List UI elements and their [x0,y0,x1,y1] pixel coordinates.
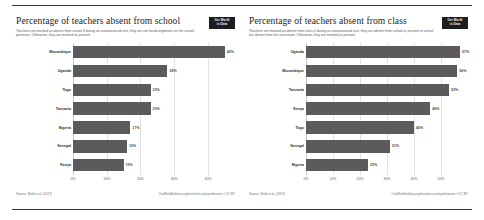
bar-row[interactable]: Kenya46% [249,102,468,114]
attribution-note[interactable]: OurWorldInData.org/teachers-and-professo… [391,192,468,196]
bar-category-label: Nigeria [292,163,304,167]
bar-track: Senegal31% [306,140,468,152]
bar-row[interactable]: Uganda28% [16,65,235,77]
bar-track: Kenya15% [73,159,235,171]
bar-track: Kenya46% [306,102,468,114]
bar-category-label: Kenya [293,107,304,111]
bar-value-label: 23% [153,88,160,92]
chart-panel-absent-from-class: Our World in Data Percentage of teachers… [245,10,472,200]
chart-footer: Source: Bold et al. (2017) OurWorldInDat… [249,192,468,196]
badge-line-2: in Data [209,23,235,27]
bar-category-label: Uganda [291,50,304,54]
bar-row[interactable]: Tanzania53% [249,84,468,96]
bar[interactable] [306,121,414,133]
bar[interactable] [73,159,124,171]
bar-value-label: 31% [392,144,399,148]
bar[interactable] [73,140,127,152]
bar-row[interactable]: Tanzania23% [16,102,235,114]
bar-value-label: 15% [126,163,133,167]
bar-track: Senegal16% [73,140,235,152]
bar[interactable] [306,65,457,77]
x-axis-tick-label: 10% [103,177,110,181]
x-axis-tick-label: 50% [437,177,444,181]
bar-value-label: 28% [169,69,176,73]
bar-row[interactable]: Nigeria17% [16,121,235,133]
bar-track: Tanzania23% [73,102,235,114]
x-axis-tick-label: 40% [204,177,211,181]
our-world-in-data-logo[interactable]: Our World in Data [442,17,468,29]
bar[interactable] [73,84,151,96]
attribution-note[interactable]: OurWorldInData.org/teachers-and-professo… [158,192,235,196]
bar-row[interactable]: Senegal16% [16,140,235,152]
bar-category-label: Kenya [60,163,71,167]
bar-row[interactable]: Mozambique56% [249,65,468,77]
bar[interactable] [306,84,449,96]
bar[interactable] [306,102,430,114]
bar-value-label: 23% [153,107,160,111]
bar-category-label: Mozambique [49,50,71,54]
bars-layer: Uganda57%Mozambique56%Tanzania53%Kenya46… [249,43,468,175]
bar-row[interactable]: Togo23% [16,84,235,96]
bar-category-label: Nigeria [59,126,71,130]
bar-row[interactable]: Togo40% [249,121,468,133]
charts-row: Our World in Data Percentage of teachers… [12,10,472,200]
bar-category-label: Togo [62,88,71,92]
bar-value-label: 46% [432,107,439,111]
badge-line-2: in Data [442,23,468,27]
bar-category-label: Tanzania [56,107,71,111]
bar-value-label: 16% [129,144,136,148]
bar-row[interactable]: Nigeria23% [249,159,468,171]
plot-area: Uganda57%Mozambique56%Tanzania53%Kenya46… [249,43,468,175]
bars-layer: Mozambique45%Uganda28%Togo23%Tanzania23%… [16,43,235,175]
bar-value-label: 53% [451,88,458,92]
bar-category-label: Senegal [57,144,71,148]
x-axis-tick-label: 30% [383,177,390,181]
x-axis-tick-label: 40% [410,177,417,181]
source-note: Source: Bold et al. (2017) [16,192,52,196]
bar[interactable] [73,102,151,114]
bar-value-label: 56% [459,69,466,73]
bar-track: Togo23% [73,84,235,96]
bar-track: Nigeria23% [306,159,468,171]
bar-row[interactable]: Mozambique45% [16,46,235,58]
bar[interactable] [73,46,225,58]
bar-row[interactable]: Uganda57% [249,46,468,58]
bar-category-label: Togo [295,126,304,130]
bar-value-label: 57% [462,50,469,54]
chart-header: Our World in Data Percentage of teachers… [249,16,468,38]
chart-title: Percentage of teachers absent from schoo… [16,16,201,27]
plot-area: Mozambique45%Uganda28%Togo23%Tanzania23%… [16,43,235,175]
bar-category-label: Senegal [290,144,304,148]
bar-track: Mozambique45% [73,46,235,58]
x-axis-tick-label: 0% [303,177,308,181]
x-axis-tick-label: 0% [70,177,75,181]
chart-title: Percentage of teachers absent from class [249,16,434,27]
bar[interactable] [73,65,168,77]
bar-row[interactable]: Kenya15% [16,159,235,171]
x-axis-tick-label: 30% [171,177,178,181]
x-axis: 0%10%20%30%40% [16,176,235,186]
bar-track: Nigeria17% [73,121,235,133]
bar[interactable] [306,159,368,171]
bar-track: Uganda28% [73,65,235,77]
bar-value-label: 40% [416,126,423,130]
chart-header: Our World in Data Percentage of teachers… [16,16,235,38]
bar-track: Togo40% [306,121,468,133]
chart-panel-absent-from-school: Our World in Data Percentage of teachers… [12,10,239,200]
bar-row[interactable]: Senegal31% [249,140,468,152]
bar-category-label: Tanzania [289,88,304,92]
page-canvas: Our World in Data Percentage of teachers… [0,0,484,220]
bar[interactable] [306,140,390,152]
bar-category-label: Mozambique [282,69,304,73]
bar-value-label: 45% [227,50,234,54]
bar-track: Mozambique56% [306,65,468,77]
chart-footer: Source: Bold et al. (2017) OurWorldInDat… [16,192,235,196]
chart-subtitle: Teachers are marked as absent from schoo… [16,29,201,38]
bar[interactable] [73,121,130,133]
bar-category-label: Uganda [58,69,71,73]
source-note: Source: Bold et al. (2017) [249,192,285,196]
bar[interactable] [306,46,460,58]
our-world-in-data-logo[interactable]: Our World in Data [209,17,235,29]
chart-subtitle: Teachers are marked as absent from class… [249,29,434,38]
x-axis: 0%10%20%30%40%50% [249,176,468,186]
